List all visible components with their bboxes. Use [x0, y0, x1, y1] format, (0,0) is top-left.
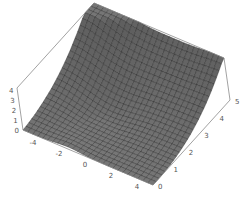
- tick-label: 4: [220, 115, 225, 123]
- tick-label: 2: [189, 149, 193, 157]
- tick-label: 2: [109, 172, 113, 180]
- tick-label: 1: [13, 117, 17, 125]
- z-axis-ticks: 01234: [9, 87, 19, 134]
- tick-label: 4: [135, 183, 140, 191]
- tick-label: 0: [15, 127, 19, 135]
- tick-label: 0: [83, 161, 87, 169]
- tick-label: 1: [173, 166, 177, 174]
- tick-label: 5: [235, 98, 239, 106]
- surface-mesh: [23, 3, 224, 185]
- tick-label: -4: [30, 139, 38, 147]
- surface-plot: 01234 -4-2024 012345: [0, 0, 243, 203]
- tick-label: 3: [204, 132, 208, 140]
- tick-label: 4: [9, 87, 14, 95]
- tick-label: -2: [56, 150, 63, 158]
- tick-label: 0: [158, 183, 162, 191]
- tick-label: 3: [10, 97, 14, 105]
- tick-label: 2: [12, 107, 16, 115]
